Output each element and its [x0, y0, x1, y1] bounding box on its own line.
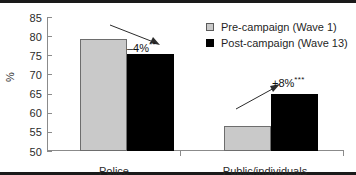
- y-tick-60: 60: [47, 113, 52, 114]
- bar-police-pre-campaign: [80, 39, 127, 151]
- bar-public-pre-campaign: [224, 126, 271, 151]
- y-tick-65: 65: [47, 94, 52, 95]
- x-tick-right-end: [343, 151, 344, 156]
- x-tick-divider: [180, 151, 181, 156]
- annotation-police-stars: **: [149, 40, 156, 49]
- annotation-public-stars: ***: [294, 75, 304, 84]
- y-tick-75: 75: [47, 55, 52, 56]
- y-tick-55: 55: [47, 132, 52, 133]
- legend-swatch-pre-campaign-icon: [206, 23, 214, 31]
- y-tick-85: 85: [47, 17, 52, 18]
- x-category-label-public: Public/individuals: [223, 165, 307, 175]
- annotation-public: +8%***: [272, 75, 305, 89]
- y-tick-label-50: 50: [30, 146, 42, 158]
- y-tick-70: 70: [47, 74, 52, 75]
- annotation-police: –4%**: [127, 40, 156, 54]
- y-tick-label-85: 85: [30, 12, 42, 24]
- legend-swatch-post-campaign-icon: [206, 39, 214, 47]
- bar-chart-figure: % 85 80 75 70 65 60 55 50: [0, 0, 356, 175]
- legend-label-pre-campaign: Pre-campaign (Wave 1): [221, 21, 337, 33]
- legend-item-post-campaign: Post-campaign (Wave 13): [206, 36, 348, 50]
- legend-label-post-campaign: Post-campaign (Wave 13): [221, 37, 348, 49]
- y-axis-title: %: [4, 72, 16, 82]
- y-tick-label-75: 75: [30, 50, 42, 62]
- x-category-label-police: Police: [99, 165, 129, 175]
- legend: Pre-campaign (Wave 1) Post-campaign (Wav…: [206, 20, 348, 52]
- y-tick-80: 80: [47, 36, 52, 37]
- annotation-public-value: +8%: [272, 77, 294, 89]
- y-tick-label-70: 70: [30, 69, 42, 81]
- x-axis-ticks-and-labels: Police Public/individuals: [47, 151, 344, 175]
- y-tick-label-80: 80: [30, 31, 42, 43]
- legend-item-pre-campaign: Pre-campaign (Wave 1): [206, 20, 348, 34]
- y-tick-label-55: 55: [30, 126, 42, 138]
- y-tick-label-65: 65: [30, 88, 42, 100]
- bar-police-post-campaign: [127, 54, 174, 151]
- annotation-police-value: –4%: [127, 42, 149, 54]
- y-tick-label-60: 60: [30, 107, 42, 119]
